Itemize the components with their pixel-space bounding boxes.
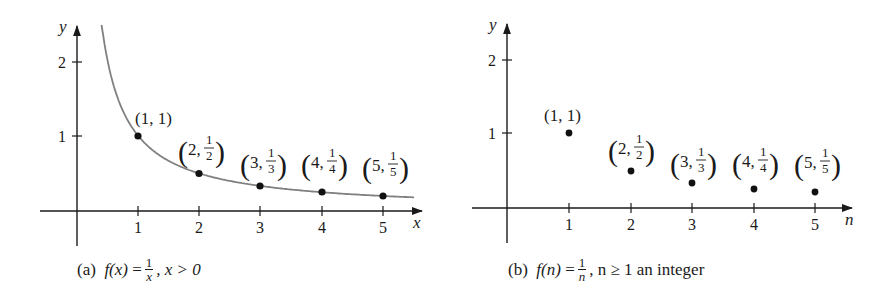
caption-b: (b) f(n) = 1 n , n ≥ 1 an integer: [508, 256, 704, 283]
point-4-b: [751, 186, 758, 193]
svg-text:(: (: [732, 147, 742, 181]
svg-text:2: 2: [636, 147, 643, 162]
svg-text:(: (: [240, 148, 250, 182]
point-5-a: [379, 192, 386, 199]
point-label-1-b: (1, 1): [544, 106, 581, 125]
point-5-b: [812, 189, 819, 196]
point-label-5-a: ( 5, 1 5 ): [362, 148, 409, 185]
figure: y x 2 1 1 2 3 4 5 (1, 1) ( 2,: [0, 0, 888, 299]
svg-text:1: 1: [760, 144, 767, 159]
point-label-2-a: ( 2, 1 2 ): [178, 132, 225, 169]
x-tick-label-5-a: 5: [379, 219, 387, 236]
svg-text:1: 1: [206, 132, 213, 147]
point-label-4-a: ( 4, 1 4 ): [301, 145, 348, 182]
x-tick-label-3-b: 3: [688, 216, 696, 233]
svg-text:1: 1: [698, 144, 705, 159]
svg-text:1: 1: [822, 145, 829, 160]
svg-text:): ): [707, 147, 717, 181]
caption-tag-a: (a): [77, 260, 96, 280]
point-4-a: [318, 188, 325, 195]
svg-text:(: (: [362, 151, 372, 185]
x-tick-label-3-a: 3: [256, 219, 264, 236]
svg-text:4: 4: [760, 160, 767, 175]
svg-text:1: 1: [329, 145, 336, 160]
svg-text:1: 1: [268, 145, 275, 160]
chart-b: y n 2 1 1 2 3 4 5 (1, 1) ( 2, 1 2 ): [472, 15, 854, 243]
svg-text:3: 3: [698, 160, 705, 175]
svg-text:): ): [215, 135, 225, 169]
svg-text:2,: 2,: [188, 140, 201, 159]
x-tick-label-2-a: 2: [195, 219, 203, 236]
svg-text:(: (: [794, 148, 804, 182]
x-tick-label-1-b: 1: [565, 216, 573, 233]
point-label-3-b: ( 3, 1 3 ): [670, 144, 717, 181]
svg-text:5: 5: [822, 161, 829, 176]
svg-text:3,: 3,: [250, 153, 263, 172]
y-tick-label-1-b: 1: [488, 125, 496, 142]
svg-text:4,: 4,: [311, 153, 324, 172]
svg-text:(: (: [301, 148, 311, 182]
svg-text:): ): [645, 134, 655, 168]
point-2-a: [195, 170, 202, 177]
point-3-b: [689, 180, 696, 187]
svg-text:): ): [769, 147, 779, 181]
svg-text:4: 4: [329, 161, 336, 176]
caption-lhs-b: f(n): [536, 260, 561, 280]
point-1-a: [134, 132, 141, 139]
svg-text:3,: 3,: [680, 152, 693, 171]
x-tick-label-2-b: 2: [627, 216, 635, 233]
point-label-2-b: ( 2, 1 2 ): [608, 131, 655, 168]
svg-text:4,: 4,: [742, 152, 755, 171]
svg-text:(: (: [670, 147, 680, 181]
svg-text:(: (: [608, 134, 618, 168]
svg-text:): ): [831, 148, 841, 182]
caption-condition-a: , x > 0: [156, 260, 201, 280]
point-label-4-b: ( 4, 1 4 ): [732, 144, 779, 181]
caption-tag-b: (b): [508, 260, 528, 280]
point-1-b: [566, 130, 573, 137]
point-label-1-a: (1, 1): [135, 109, 172, 128]
x-tick-label-4-a: 4: [318, 219, 326, 236]
svg-text:5,: 5,: [804, 153, 817, 172]
svg-text:2: 2: [206, 148, 213, 163]
caption-a: (a) f(x) = 1 x , x > 0: [77, 256, 201, 283]
point-2-b: [628, 168, 635, 175]
point-3-a: [256, 182, 263, 189]
caption-eq-b: =: [565, 260, 575, 280]
x-tick-label-5-b: 5: [811, 216, 819, 233]
y-tick-label-2-a: 2: [58, 54, 66, 71]
x-axis-label-a: x: [412, 213, 421, 232]
y-tick-label-2-b: 2: [488, 52, 496, 69]
x-tick-label-1-a: 1: [134, 219, 142, 236]
y-tick-label-1-a: 1: [58, 128, 66, 145]
caption-fraction-b: 1 n: [578, 256, 587, 283]
y-axis-label-b: y: [487, 15, 497, 34]
y-axis-label-a: y: [57, 17, 67, 36]
caption-lhs-a: f(x): [104, 260, 128, 280]
caption-fraction-a: 1 x: [145, 256, 154, 283]
svg-text:2,: 2,: [618, 139, 631, 158]
caption-eq-a: =: [132, 260, 142, 280]
x-tick-label-4-b: 4: [750, 216, 758, 233]
svg-text:5,: 5,: [372, 156, 385, 175]
svg-text:1: 1: [636, 131, 643, 146]
svg-text:(: (: [178, 135, 188, 169]
svg-text:5: 5: [390, 164, 397, 179]
point-label-3-a: ( 3, 1 3 ): [240, 145, 287, 182]
chart-a: y x 2 1 1 2 3 4 5 (1, 1) ( 2,: [40, 17, 422, 246]
caption-condition-b: , n ≥ 1 an integer: [589, 260, 704, 280]
point-label-5-b: ( 5, 1 5 ): [794, 145, 841, 182]
svg-text:1: 1: [390, 148, 397, 163]
svg-text:): ): [277, 148, 287, 182]
x-axis-label-b: n: [845, 210, 854, 229]
svg-text:): ): [399, 151, 409, 185]
svg-text:3: 3: [268, 161, 275, 176]
svg-text:): ): [338, 148, 348, 182]
